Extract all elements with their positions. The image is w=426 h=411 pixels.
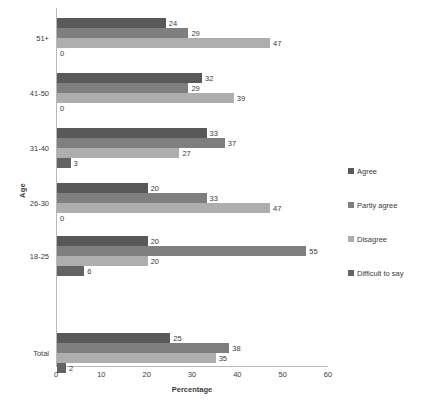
bar[interactable] [57,256,148,266]
bar-row: 25 [57,333,329,343]
legend-item[interactable]: Partly agree [348,200,404,210]
bar[interactable] [57,148,179,158]
bar[interactable] [57,353,216,363]
bar[interactable] [57,73,202,83]
bar-row: 0 [57,48,329,58]
bar[interactable] [57,128,207,138]
x-tick-label: 10 [97,370,105,379]
bar[interactable] [57,138,225,148]
legend-item[interactable]: Disagree [348,234,404,244]
bar-row: 20 [57,236,329,246]
bar-row: 0 [57,103,329,113]
bar-row: 27 [57,148,329,158]
bar[interactable] [57,236,148,246]
x-tick-label: 30 [188,370,196,379]
bar[interactable] [57,343,229,353]
category-label: 18-25 [30,252,49,261]
bar-value-label: 55 [309,247,317,256]
bar[interactable] [57,28,188,38]
x-tick-label: 40 [233,370,241,379]
bar-value-label: 38 [232,344,240,353]
y-axis-title: Age [18,171,27,211]
bar-value-label: 20 [151,184,159,193]
bar-row: 33 [57,193,329,203]
category-label: 26-30 [30,199,49,208]
bar-value-label: 6 [87,267,91,276]
bar-row: 20 [57,256,329,266]
category-label: 51+ [36,34,49,43]
bar-chart: Age 51+242947041-50322939031-40333727326… [0,0,426,411]
bar-row: 47 [57,38,329,48]
bar-group: 31-403337273 [56,128,328,168]
bar-value-label: 24 [169,19,177,28]
bar-value-label: 33 [210,194,218,203]
bar-row: 3 [57,158,329,168]
bar-row: 0 [57,213,329,223]
legend-swatch-icon [348,202,354,208]
bar-row: 55 [57,246,329,256]
bar[interactable] [57,83,188,93]
bar-value-label: 47 [273,39,281,48]
category-label: 41-50 [30,89,49,98]
bar-group: 41-503229390 [56,73,328,113]
bar-group: Total2538352 [56,333,328,373]
bar-value-label: 37 [228,139,236,148]
legend-swatch-icon [348,270,354,276]
legend-label: Agree [357,167,377,176]
bar[interactable] [57,18,166,28]
bar-row: 47 [57,203,329,213]
x-tick-label: 60 [324,370,332,379]
category-label: 31-40 [30,144,49,153]
bar-value-label: 0 [60,104,64,113]
bar-value-label: 33 [210,129,218,138]
bar[interactable] [57,158,71,168]
x-axis-title: Percentage [56,385,328,394]
bar-row: 38 [57,343,329,353]
bar-value-label: 29 [191,29,199,38]
bar[interactable] [57,203,270,213]
chart-legend: AgreePartly agreeDisagreeDifficult to sa… [348,166,404,302]
bar-group: 18-252055206 [56,236,328,276]
bar-row: 20 [57,183,329,193]
bar-value-label: 20 [151,237,159,246]
bar-group: 26-302033470 [56,183,328,223]
legend-label: Disagree [357,235,387,244]
x-tick-label: 20 [142,370,150,379]
bar-row: 33 [57,128,329,138]
bar-value-label: 35 [219,354,227,363]
bar[interactable] [57,246,306,256]
legend-label: Difficult to say [357,269,404,278]
bar[interactable] [57,38,270,48]
bar-value-label: 27 [182,149,190,158]
bar-group: 51+2429470 [56,18,328,58]
x-axis-ticks: 0102030405060 [56,370,328,382]
bar[interactable] [57,333,170,343]
legend-swatch-icon [348,168,354,174]
bar-value-label: 3 [74,159,78,168]
bar-value-label: 39 [237,94,245,103]
legend-item[interactable]: Agree [348,166,404,176]
bar-value-label: 0 [60,49,64,58]
x-tick-label: 0 [54,370,58,379]
bar-row: 39 [57,93,329,103]
category-label: Total [33,349,49,358]
bar[interactable] [57,93,234,103]
bar-row: 29 [57,83,329,93]
bar-value-label: 25 [173,334,181,343]
bar-row: 24 [57,18,329,28]
bar[interactable] [57,183,148,193]
plot-area: 51+242947041-50322939031-40333727326-302… [56,8,328,367]
bar-row: 29 [57,28,329,38]
bar-row: 32 [57,73,329,83]
legend-item[interactable]: Difficult to say [348,268,404,278]
bar[interactable] [57,266,84,276]
bar-value-label: 0 [60,214,64,223]
bar-row: 37 [57,138,329,148]
bar-value-label: 29 [191,84,199,93]
bar[interactable] [57,193,207,203]
bar-value-label: 20 [151,257,159,266]
legend-label: Partly agree [357,201,397,210]
bar-row: 35 [57,353,329,363]
bar-value-label: 47 [273,204,281,213]
legend-swatch-icon [348,236,354,242]
